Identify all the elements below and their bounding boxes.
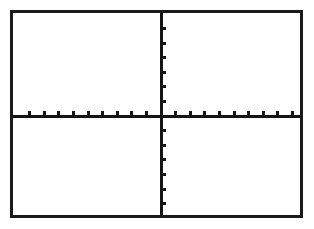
y-axis-group	[161, 13, 166, 215]
graph-viewport-frame[interactable]	[10, 10, 303, 218]
plot-area[interactable]	[13, 13, 300, 215]
calculator-screen	[0, 0, 314, 229]
x-axis-group	[13, 111, 300, 116]
coordinate-axes	[13, 13, 300, 215]
